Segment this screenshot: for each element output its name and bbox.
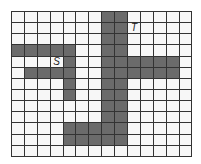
grid-cell (140, 78, 153, 89)
grid-cell (153, 33, 166, 44)
shaded-cell (127, 56, 140, 67)
grid-cell (63, 145, 76, 156)
shaded-cell (114, 33, 127, 44)
grid-cell (75, 145, 88, 156)
grid-cell (88, 145, 101, 156)
shaded-cell (37, 67, 50, 78)
grid-cell (153, 100, 166, 111)
grid-cell (153, 111, 166, 122)
grid-cell (153, 145, 166, 156)
grid-cell (50, 122, 63, 133)
grid-cell (75, 44, 88, 55)
shaded-cell (114, 22, 127, 33)
grid-cell (166, 33, 179, 44)
grid-cell (24, 22, 37, 33)
shaded-cell (63, 122, 76, 133)
grid-cell (140, 111, 153, 122)
grid-cell (11, 56, 24, 67)
grid-cell (88, 100, 101, 111)
grid-cell (37, 56, 50, 67)
grid-cell: S (50, 56, 63, 67)
grid-cell (50, 100, 63, 111)
shaded-cell (75, 122, 88, 133)
shaded-cell (153, 67, 166, 78)
grid-cell (166, 22, 179, 33)
cell-label-t: T (128, 22, 140, 33)
grid-cell (37, 22, 50, 33)
grid-cell (179, 33, 192, 44)
shaded-cell (114, 78, 127, 89)
grid-cell (75, 56, 88, 67)
shaded-cell (114, 44, 127, 55)
grid-cell (37, 33, 50, 44)
shaded-cell (75, 134, 88, 145)
grid-cell (179, 56, 192, 67)
grid-cell (166, 145, 179, 156)
grid-cell (153, 122, 166, 133)
grid-cell (179, 145, 192, 156)
grid-cell (24, 100, 37, 111)
shaded-cell (101, 33, 114, 44)
grid-cell (179, 134, 192, 145)
grid-cell (37, 122, 50, 133)
grid-cell (75, 111, 88, 122)
grid-cell (88, 56, 101, 67)
shaded-cell (63, 67, 76, 78)
maze-grid: TS (11, 11, 192, 157)
grid-cell (153, 22, 166, 33)
shaded-cell (11, 44, 24, 55)
shaded-cell (101, 134, 114, 145)
grid-cell (153, 89, 166, 100)
grid-cell (166, 44, 179, 55)
grid-cell (11, 100, 24, 111)
grid-cell (127, 89, 140, 100)
grid-cell (50, 33, 63, 44)
grid-cell (50, 78, 63, 89)
grid-cell (114, 145, 127, 156)
shaded-cell (101, 89, 114, 100)
grid-cell (166, 134, 179, 145)
grid-cell (140, 11, 153, 22)
shaded-cell (114, 134, 127, 145)
grid-cell (37, 78, 50, 89)
grid-cell (24, 134, 37, 145)
grid-cell (24, 111, 37, 122)
grid-cell (37, 100, 50, 111)
grid-cell (88, 11, 101, 22)
shaded-cell (88, 122, 101, 133)
grid-cell (88, 22, 101, 33)
grid-cell (179, 78, 192, 89)
grid-cell (127, 44, 140, 55)
grid-cell (166, 11, 179, 22)
grid-cell (153, 44, 166, 55)
shaded-cell (101, 11, 114, 22)
grid-cell (127, 100, 140, 111)
grid-cell (127, 11, 140, 22)
shaded-cell (114, 111, 127, 122)
shaded-cell (63, 134, 76, 145)
grid-cell (75, 78, 88, 89)
shaded-cell (88, 134, 101, 145)
grid-cell (88, 67, 101, 78)
grid-cell (11, 33, 24, 44)
grid-cell (37, 145, 50, 156)
grid-cell (75, 33, 88, 44)
grid-cell (140, 89, 153, 100)
grid-cell (179, 67, 192, 78)
shaded-cell (101, 122, 114, 133)
grid-cell (127, 145, 140, 156)
grid-cell (140, 44, 153, 55)
grid-cell (24, 78, 37, 89)
grid-cell (140, 33, 153, 44)
shaded-cell (166, 67, 179, 78)
grid-cell (63, 33, 76, 44)
shaded-cell (114, 11, 127, 22)
grid-cell (50, 111, 63, 122)
grid-cell (11, 134, 24, 145)
grid-cell (24, 89, 37, 100)
grid-cell (166, 78, 179, 89)
grid-cell (153, 134, 166, 145)
grid-cell (63, 111, 76, 122)
grid-cell (179, 89, 192, 100)
shaded-cell (101, 67, 114, 78)
